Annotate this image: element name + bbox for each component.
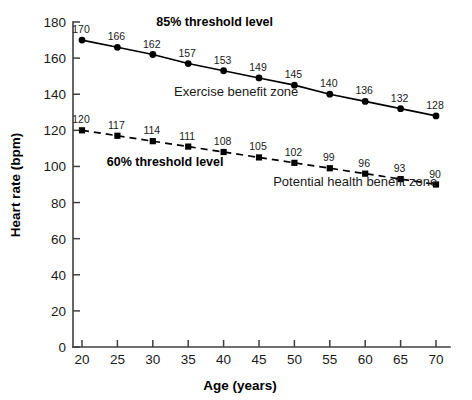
data-point-label: 93	[394, 162, 406, 174]
data-point-label: 102	[285, 146, 303, 158]
heart-rate-age-chart: 020406080100120140160180 202530354045505…	[0, 0, 472, 400]
y-axis-tick-label: 140	[43, 87, 66, 102]
data-point-marker	[79, 127, 85, 133]
x-axis-tick-label: 45	[251, 352, 266, 367]
x-axis-tick-label: 20	[74, 352, 89, 367]
data-point-marker	[256, 154, 262, 160]
data-point-label: 96	[358, 157, 370, 169]
data-point-label: 114	[143, 124, 160, 136]
chart-annotation: 85% threshold level	[156, 15, 273, 29]
y-axis-tick-label: 20	[51, 304, 66, 319]
x-axis-tick-label: 55	[322, 352, 337, 367]
x-axis-tick-label: 50	[287, 352, 302, 367]
data-point-label: 170	[72, 23, 90, 35]
data-point-label: 128	[426, 99, 444, 111]
y-axis-tick-label: 160	[43, 51, 66, 66]
data-point-marker	[185, 60, 192, 67]
data-point-marker	[149, 51, 156, 58]
x-axis-tick-label: 25	[110, 352, 125, 367]
y-axis-title: Heart rate (bpm)	[8, 133, 23, 237]
data-point-marker	[291, 160, 297, 166]
data-point-label: 132	[391, 92, 409, 104]
x-axis-tick-label: 40	[216, 352, 231, 367]
data-point-marker	[220, 67, 227, 74]
data-point-label: 99	[323, 151, 335, 163]
chart-annotation: Exercise benefit zone	[174, 84, 298, 99]
data-point-label: 108	[214, 135, 232, 147]
data-point-label: 162	[143, 38, 161, 50]
y-axis-tick-label: 80	[51, 196, 66, 211]
y-axis-tick-label: 40	[51, 268, 66, 283]
chart-annotation: Potential health benefit zone	[273, 174, 437, 189]
data-point-label: 111	[179, 130, 195, 142]
data-point-label: 105	[249, 140, 267, 152]
y-axis-tick-label: 100	[43, 159, 66, 174]
data-point-marker	[150, 138, 156, 144]
chart-canvas: 020406080100120140160180 202530354045505…	[0, 0, 472, 400]
data-point-label: 149	[249, 61, 267, 73]
data-point-label: 120	[72, 113, 90, 125]
data-point-label: 117	[108, 119, 125, 131]
y-axis-tick-label: 60	[51, 232, 66, 247]
data-point-label: 157	[178, 47, 196, 59]
x-axis-tick-label: 35	[181, 352, 196, 367]
data-point-marker	[397, 105, 404, 112]
x-axis-tick-label: 70	[428, 352, 443, 367]
x-axis-title: Age (years)	[203, 378, 277, 393]
data-point-marker	[362, 98, 369, 105]
data-point-marker	[221, 149, 227, 155]
data-point-marker	[327, 165, 333, 171]
y-axis-tick-label: 0	[58, 340, 66, 355]
data-point-marker	[114, 133, 120, 139]
data-point-marker	[433, 112, 440, 119]
data-point-label: 140	[320, 77, 338, 89]
data-point-marker	[256, 75, 263, 82]
data-point-label: 145	[285, 68, 303, 80]
x-axis-tick-label: 30	[145, 352, 160, 367]
x-axis-tick-label: 60	[358, 352, 373, 367]
chart-annotation: 60% threshold level	[107, 155, 224, 169]
data-point-label: 153	[214, 54, 232, 66]
y-axis-tick-label: 180	[43, 15, 66, 30]
data-point-marker	[326, 91, 333, 98]
data-point-marker	[79, 37, 86, 44]
data-point-marker	[114, 44, 121, 51]
y-axis-tick-label: 120	[43, 123, 66, 138]
data-point-marker	[185, 143, 191, 149]
x-axis-tick-label: 65	[393, 352, 408, 367]
data-point-label: 166	[108, 30, 126, 42]
data-point-label: 136	[355, 84, 373, 96]
